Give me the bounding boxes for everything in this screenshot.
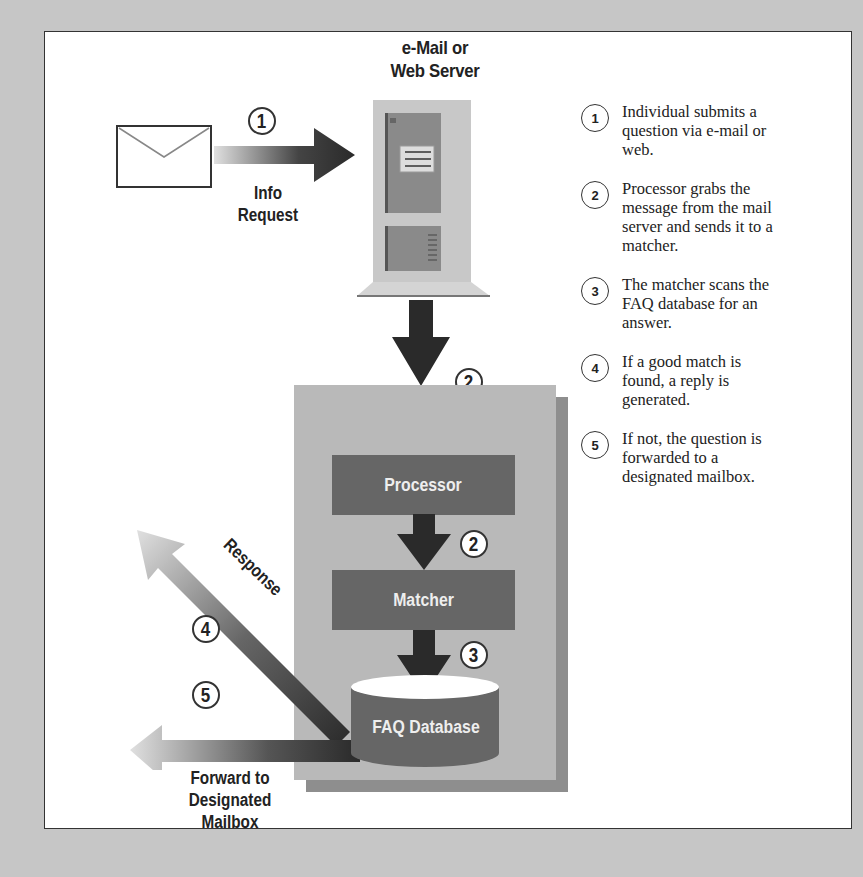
step-1-marker: 1 [248,107,276,135]
legend-number-2: 2 [581,181,609,209]
request-arrow-icon [214,128,359,184]
server-title: e-Mail or Web Server [369,36,501,82]
step-4-marker: 4 [192,615,220,643]
server-tower-icon [355,98,495,303]
step-3-marker: 3 [460,641,488,669]
legend-item-4: 4If a good match is found, a reply is ge… [580,352,850,409]
legend-item-5: 5If not, the question is forwarded to a … [580,429,850,486]
step-5-marker: 5 [192,681,220,709]
forward-label: Forward to Designated Mailbox [179,767,281,833]
step-2b-marker: 2 [460,530,488,558]
server-title-line2: Web Server [369,59,501,82]
steps-legend: 1Individual submits a question via e-mai… [580,102,850,506]
legend-item-2: 2Processor grabs the message from the ma… [580,179,850,255]
legend-number-5: 5 [581,431,609,459]
legend-number-4: 4 [581,354,609,382]
legend-item-3: 3The matcher scans the FAQ database for … [580,275,850,332]
down-arrow-icon [392,300,452,390]
info-request-label: Info Request [226,182,311,226]
legend-number-3: 3 [581,277,609,305]
processor-box: Processor [332,455,515,515]
processor-to-matcher-arrow-icon [397,514,453,574]
database-label: FAQ Database [350,712,502,742]
legend-number-1: 1 [581,104,609,132]
envelope-icon [115,124,215,190]
legend-item-1: 1Individual submits a question via e-mai… [580,102,850,159]
server-title-line1: e-Mail or [369,36,501,59]
